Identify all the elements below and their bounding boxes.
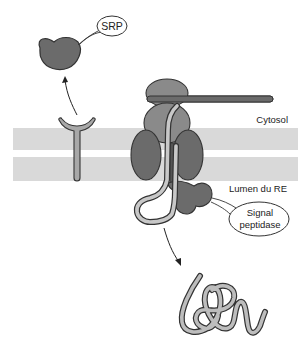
signal-peptidase-callout-tail xyxy=(212,198,236,208)
srp-label: SRP xyxy=(101,20,123,32)
signal-peptidase-label-line2: peptidase xyxy=(239,219,280,230)
mrna-strand-front xyxy=(147,96,273,102)
srp-particle-icon xyxy=(39,38,80,70)
release-arrowhead-icon xyxy=(62,76,68,83)
release-arrow xyxy=(65,80,77,115)
lumen-label: Lumen du RE xyxy=(229,183,287,194)
folding-arrow xyxy=(164,228,179,262)
signal-peptidase-label-line1: Signal xyxy=(247,207,273,218)
signal-peptidase-callout-tail2 xyxy=(211,202,230,214)
folded-protein-icon xyxy=(182,276,265,333)
folding-arrowhead-icon xyxy=(175,258,181,266)
translocon-left-lobe xyxy=(131,130,161,180)
srp-translocation-diagram: SRP Cytosol Lumen du RE Signal peptidase xyxy=(0,0,298,341)
cytosol-label: Cytosol xyxy=(256,114,288,125)
srp-callout-tail2 xyxy=(80,32,104,44)
